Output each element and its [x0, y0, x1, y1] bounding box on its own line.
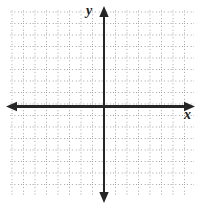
coordinate-plane-figure: y x	[0, 0, 204, 209]
x-axis-label: x	[184, 108, 191, 122]
grid	[10, 10, 194, 195]
coordinate-plane-canvas	[0, 0, 204, 209]
grid-dots	[10, 10, 194, 195]
y-axis-label: y	[86, 4, 92, 18]
